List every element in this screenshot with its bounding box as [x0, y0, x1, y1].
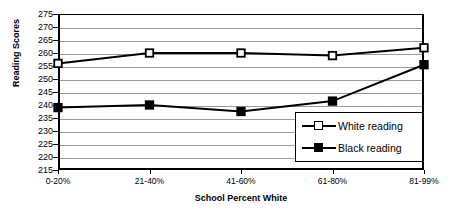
chart-legend: White reading Black reading — [295, 112, 423, 162]
data-point-marker — [329, 97, 337, 105]
data-point-marker — [54, 60, 62, 68]
data-point-marker — [237, 49, 245, 57]
reading-scores-line-chart: Reading Scores 2752702652602552502452402… — [0, 0, 456, 215]
data-point-marker — [54, 104, 62, 112]
open-square-marker-icon — [302, 119, 336, 133]
data-point-marker — [329, 52, 337, 60]
data-point-marker — [420, 61, 428, 68]
data-point-marker — [420, 44, 428, 52]
legend-label-black-reading: Black reading — [338, 142, 402, 154]
legend-item-white-reading: White reading — [296, 115, 424, 137]
series-white-reading — [54, 44, 428, 67]
series-black-reading — [54, 61, 428, 115]
data-point-marker — [146, 49, 154, 57]
legend-item-black-reading: Black reading — [296, 137, 424, 159]
data-series-layer — [0, 0, 456, 215]
series-line — [58, 65, 424, 112]
legend-label-white-reading: White reading — [338, 120, 403, 132]
data-point-marker — [237, 108, 245, 116]
filled-square-marker-icon — [302, 141, 336, 155]
data-point-marker — [146, 101, 154, 109]
x-axis-title: School Percent White — [58, 193, 424, 203]
